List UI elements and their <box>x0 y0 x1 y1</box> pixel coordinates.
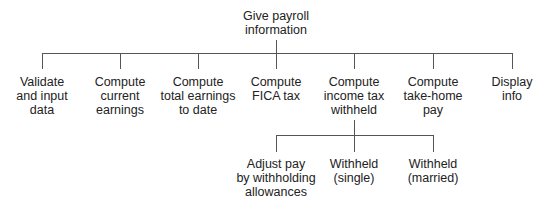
node-fica-tax: Compute FICA tax <box>251 75 302 103</box>
connector <box>276 53 277 69</box>
node-validate-input: Validate and input data <box>16 75 67 117</box>
connector <box>512 53 513 69</box>
node-take-home: Compute take-home pay <box>403 75 462 117</box>
connector <box>198 53 199 69</box>
connector <box>276 135 434 136</box>
node-current-earnings: Compute current earnings <box>95 75 146 117</box>
connector <box>42 53 43 69</box>
node-display-info: Display info <box>492 75 533 103</box>
connector <box>276 135 277 152</box>
connector <box>120 53 121 69</box>
root-node: Give payroll information <box>243 9 309 37</box>
node-withheld-single: Withheld (single) <box>330 157 379 185</box>
node-adjust-pay: Adjust pay by withholding allowances <box>236 157 315 199</box>
connector <box>433 135 434 152</box>
connector <box>354 53 355 69</box>
node-income-tax: Compute income tax withheld <box>324 75 384 117</box>
connector <box>354 120 355 152</box>
node-withheld-married: Withheld (married) <box>408 157 459 185</box>
connector <box>276 40 277 53</box>
node-total-earnings: Compute total earnings to date <box>160 75 235 117</box>
connector <box>433 53 434 69</box>
connector <box>42 53 513 54</box>
